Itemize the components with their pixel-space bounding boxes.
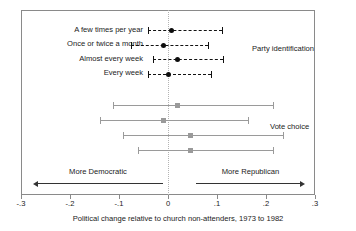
group-label-party-identification: Party identification — [252, 45, 314, 53]
category-label: Almost every week — [23, 55, 143, 63]
direction-arrow-line — [196, 183, 300, 184]
interval-cap — [138, 147, 139, 154]
confidence-interval-line — [148, 30, 222, 32]
interval-cap — [123, 132, 124, 139]
category-label: A few times per year — [23, 26, 143, 34]
x-axis-tick-label: .3 — [301, 199, 329, 208]
x-axis-tick-label: -.2 — [56, 199, 84, 208]
direction-label-right: More Republican — [196, 167, 305, 176]
interval-cap — [283, 132, 284, 139]
point-estimate-marker — [188, 148, 193, 153]
interval-cap — [148, 71, 149, 78]
x-axis-tick-label: -.1 — [105, 199, 133, 208]
confidence-interval-line — [148, 74, 211, 76]
interval-cap — [113, 102, 114, 109]
confidence-interval-line — [100, 120, 248, 122]
point-estimate-marker — [188, 133, 193, 138]
x-axis-tick-label: 0 — [154, 199, 182, 208]
category-label: Once or twice a month — [23, 40, 143, 48]
x-axis-tick-label: .1 — [203, 199, 231, 208]
interval-cap — [148, 27, 149, 34]
direction-arrow-head — [33, 181, 38, 187]
interval-cap — [153, 56, 154, 63]
direction-arrow-head — [300, 181, 305, 187]
zero-reference-line — [168, 10, 169, 195]
confidence-interval-line — [123, 135, 283, 137]
confidence-interval-line — [153, 59, 223, 61]
point-estimate-marker — [175, 103, 180, 108]
interval-cap — [223, 56, 224, 63]
confidence-interval-line — [138, 150, 273, 152]
coefficient-plot-figure: A few times per yearOnce or twice a mont… — [0, 0, 356, 231]
direction-arrow-line — [38, 183, 163, 184]
interval-cap — [131, 42, 132, 49]
x-axis-title: Political change relative to church non-… — [0, 214, 356, 223]
x-axis-tick-label: .2 — [252, 199, 280, 208]
confidence-interval-line — [131, 45, 208, 47]
direction-label-left: More Democratic — [33, 167, 163, 176]
interval-cap — [273, 102, 274, 109]
x-axis-tick-label: -.3 — [7, 199, 35, 208]
group-label-vote-choice: Vote choice — [270, 123, 309, 131]
interval-cap — [222, 27, 223, 34]
interval-cap — [211, 71, 212, 78]
interval-cap — [208, 42, 209, 49]
interval-cap — [273, 147, 274, 154]
interval-cap — [248, 117, 249, 124]
point-estimate-marker — [161, 118, 166, 123]
category-label: Every week — [23, 69, 143, 77]
interval-cap — [100, 117, 101, 124]
confidence-interval-line — [113, 105, 273, 107]
point-estimate-marker — [161, 43, 166, 48]
